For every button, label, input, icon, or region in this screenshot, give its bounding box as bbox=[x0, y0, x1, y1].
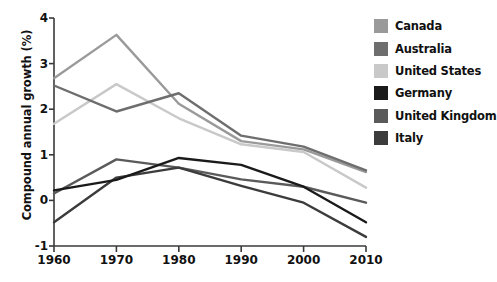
legend-item[interactable]: Canada bbox=[374, 15, 489, 37]
series-line-australia bbox=[54, 85, 366, 170]
legend-swatch-icon bbox=[374, 109, 388, 123]
x-tick-label: 1970 bbox=[88, 254, 144, 266]
legend-item[interactable]: Australia bbox=[374, 37, 489, 59]
legend: CanadaAustraliaUnited StatesGermanyUnite… bbox=[374, 15, 489, 149]
legend-label: Italy bbox=[395, 131, 423, 145]
x-axis-tick-labels: 196019701980199020002010 bbox=[54, 250, 366, 272]
legend-swatch-icon bbox=[374, 86, 388, 100]
legend-swatch-icon bbox=[374, 19, 388, 33]
legend-label: Australia bbox=[395, 42, 452, 56]
legend-swatch-icon bbox=[374, 42, 388, 56]
x-tick-label: 1990 bbox=[213, 254, 269, 266]
x-tick-label: 2010 bbox=[338, 254, 394, 266]
y-axis-tick-labels: -101234 bbox=[18, 18, 48, 246]
legend-item[interactable]: United Kingdom bbox=[374, 105, 489, 127]
legend-label: Germany bbox=[395, 86, 452, 100]
y-tick-label: -1 bbox=[22, 240, 48, 252]
legend-item[interactable]: United States bbox=[374, 60, 489, 82]
plot-svg bbox=[54, 18, 366, 246]
y-tick-label: 3 bbox=[22, 58, 48, 70]
legend-label: United States bbox=[395, 64, 481, 78]
y-tick-label: 1 bbox=[22, 149, 48, 161]
x-tick-label: 1980 bbox=[151, 254, 207, 266]
plot-area bbox=[54, 18, 366, 246]
legend-item[interactable]: Germany bbox=[374, 82, 489, 104]
legend-label: Canada bbox=[395, 19, 442, 33]
legend-swatch-icon bbox=[374, 64, 388, 78]
y-tick-label: 2 bbox=[22, 103, 48, 115]
x-tick-label: 1960 bbox=[26, 254, 82, 266]
legend-item[interactable]: Italy bbox=[374, 127, 489, 149]
series-line-italy bbox=[54, 168, 366, 237]
legend-label: United Kingdom bbox=[395, 109, 497, 123]
y-tick-label: 4 bbox=[22, 12, 48, 24]
legend-swatch-icon bbox=[374, 131, 388, 145]
x-tick-label: 2000 bbox=[276, 254, 332, 266]
y-tick-label: 0 bbox=[22, 194, 48, 206]
series-line-united-states bbox=[54, 84, 366, 188]
